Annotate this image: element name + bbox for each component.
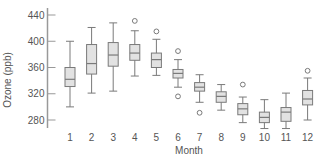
outlier-point <box>154 29 159 34</box>
iqr-box <box>87 45 97 75</box>
box-month-12 <box>303 68 313 120</box>
iqr-box <box>108 43 118 67</box>
x-tick-label: 12 <box>302 132 314 143</box>
x-tick-label: 8 <box>218 132 224 143</box>
x-axis-title: Month <box>175 145 203 156</box>
outlier-point <box>132 19 137 24</box>
y-tick-label: 400 <box>28 36 45 47</box>
y-tick-label: 280 <box>28 115 45 126</box>
x-tick-labels: 123456789101112 <box>67 132 313 143</box>
box-month-10 <box>259 100 269 129</box>
iqr-box <box>130 45 140 61</box>
x-tick-label: 10 <box>259 132 271 143</box>
x-tick-label: 9 <box>240 132 246 143</box>
box-month-2 <box>87 27 97 93</box>
outlier-point <box>197 110 202 115</box>
outlier-point <box>176 49 181 54</box>
x-tick-label: 2 <box>89 132 95 143</box>
outlier-point <box>305 68 310 73</box>
x-tick-label: 7 <box>197 132 203 143</box>
iqr-box <box>151 53 161 67</box>
y-tick-label: 360 <box>28 62 45 73</box>
outlier-point <box>240 82 245 87</box>
iqr-box <box>216 92 226 103</box>
x-tick-label: 5 <box>154 132 160 143</box>
iqr-box <box>303 90 313 104</box>
box-month-3 <box>108 23 118 91</box>
iqr-box <box>281 108 291 122</box>
y-tick-label: 320 <box>28 88 45 99</box>
x-tick-label: 3 <box>110 132 116 143</box>
x-tick-label: 1 <box>67 132 73 143</box>
y-axis-title: Ozone (ppb) <box>2 52 13 108</box>
x-tick-label: 4 <box>132 132 138 143</box>
iqr-box <box>65 68 75 87</box>
ozone-boxplot-chart: 280320360400440 123456789101112 Month Oz… <box>0 0 324 165</box>
box-month-9 <box>238 82 248 122</box>
box-month-7 <box>195 75 205 115</box>
box-month-1 <box>65 41 75 107</box>
x-tick-label: 11 <box>281 132 292 143</box>
y-tick-label: 440 <box>28 10 45 21</box>
box-month-4 <box>130 19 140 77</box>
box-month-8 <box>216 85 226 111</box>
box-month-11 <box>281 93 291 128</box>
box-month-6 <box>173 49 183 99</box>
x-tick-label: 6 <box>175 132 181 143</box>
outlier-point <box>176 94 181 99</box>
box-month-5 <box>151 29 161 75</box>
boxes <box>65 19 313 129</box>
y-ticks: 280320360400440 <box>28 10 56 126</box>
